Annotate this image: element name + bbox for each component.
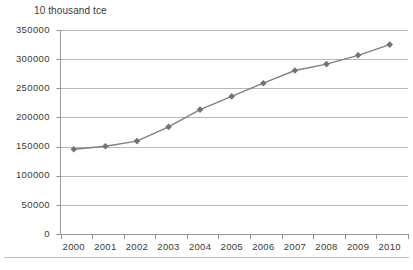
data-point-marker: 2000: 145531: [71, 146, 78, 153]
chart-plot-area: 2000: 1455312001: 1504062002: 1594312003…: [0, 0, 413, 270]
data-point-marker: 2006: 258676: [260, 80, 267, 87]
series-markers: 2000: 1455312001: 1504062002: 1594312003…: [71, 41, 394, 152]
data-point-marker: 2007: 280508: [292, 67, 299, 74]
data-point-marker: 2002: 159431: [134, 138, 141, 145]
data-point-marker: 2008: 291448: [323, 61, 330, 68]
chart-container: 10 thousand tce 350000 300000 250000 200…: [0, 0, 413, 270]
data-point-marker: 2005: 235997: [228, 93, 235, 100]
data-point-marker: 2003: 183792: [165, 124, 172, 131]
x-axis-labels: 2000200120022003200420052006200720082009…: [0, 241, 413, 259]
x-axis-tick-label: 2010: [370, 241, 410, 252]
data-point-marker: 2001: 150406: [102, 143, 109, 150]
y-axis-ticks: [57, 31, 61, 235]
data-point-marker: 2004: 213456: [197, 106, 204, 113]
axis-lines: [4, 30, 409, 258]
data-point-marker: 2009: 306647: [355, 52, 362, 59]
gridlines: [61, 31, 409, 206]
data-point-marker: 2010: 324939: [386, 41, 393, 48]
